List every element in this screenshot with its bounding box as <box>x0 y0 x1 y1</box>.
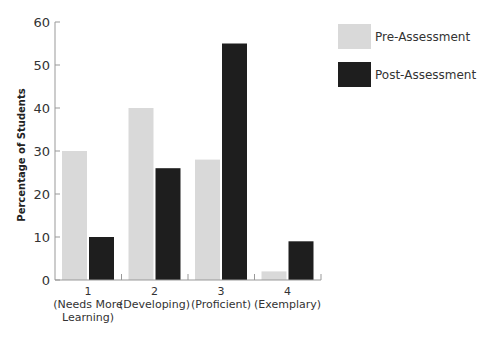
y-tick-label: 60 <box>33 15 50 30</box>
category-number: 2 <box>151 285 158 298</box>
y-axis-label: Percentage of Students <box>16 88 27 221</box>
legend: Pre-AssessmentPost-Assessment <box>338 24 476 87</box>
pre-assessment-bar <box>129 108 154 280</box>
category-number: 1 <box>85 285 92 298</box>
pre-assessment-bar <box>195 160 220 280</box>
y-tick-label: 50 <box>33 58 50 73</box>
y-tick-label: 40 <box>33 101 50 116</box>
y-axis: 0102030405060 <box>33 15 60 288</box>
category-label: (Needs More <box>53 298 123 311</box>
pre-assessment-bar <box>62 151 87 280</box>
category-label: (Developing) <box>119 298 190 311</box>
pre-assessment-bar <box>262 271 287 280</box>
post-assessment-bar <box>89 237 114 280</box>
legend-label-pre: Pre-Assessment <box>375 30 470 44</box>
legend-label-post: Post-Assessment <box>375 68 476 82</box>
y-tick-label: 0 <box>42 273 50 288</box>
post-assessment-bar <box>222 44 247 281</box>
legend-swatch-pre <box>338 24 371 49</box>
category-number: 3 <box>218 285 225 298</box>
x-axis: 1(Needs MoreLearning)2(Developing)3(Prof… <box>53 274 321 324</box>
legend-swatch-post <box>338 62 371 87</box>
bars <box>62 44 314 281</box>
y-tick-label: 20 <box>33 187 50 202</box>
y-tick-label: 10 <box>33 230 50 245</box>
post-assessment-bar <box>289 241 314 280</box>
category-label: (Proficient) <box>191 298 251 311</box>
category-label: Learning) <box>62 311 114 324</box>
bar-chart: 0102030405060 1(Needs MoreLearning)2(Dev… <box>0 0 479 337</box>
y-tick-label: 30 <box>33 144 50 159</box>
category-number: 4 <box>284 285 291 298</box>
category-label: (Exemplary) <box>254 298 321 311</box>
post-assessment-bar <box>156 168 181 280</box>
